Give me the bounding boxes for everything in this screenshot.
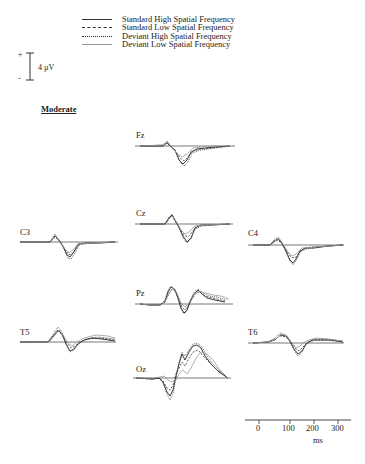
- legend: Standard High Spatial Frequency Standard…: [82, 15, 235, 49]
- erp-trace-fz: [135, 138, 235, 178]
- tick-300: 300: [331, 423, 344, 433]
- dashed-line-swatch: [82, 27, 112, 28]
- erp-trace-c4: [248, 235, 348, 280]
- scale-bar-icon: [24, 52, 36, 82]
- condition-title: Moderate: [41, 104, 76, 114]
- legend-label: Deviant Low Spatial Frequency: [122, 40, 230, 49]
- solid-line-swatch: [82, 19, 112, 20]
- erp-trace-t6: [248, 325, 348, 370]
- scale-value: 4 µV: [38, 63, 54, 72]
- light-line-swatch: [82, 44, 112, 45]
- erp-trace-cz: [135, 212, 235, 257]
- axis-unit: ms: [313, 435, 323, 445]
- plus-label: +: [18, 50, 23, 59]
- dotted-line-swatch: [82, 36, 112, 37]
- legend-item-deviant-low: Deviant Low Spatial Frequency: [82, 41, 235, 50]
- erp-trace-t5: [20, 320, 120, 365]
- erp-trace-c3: [20, 232, 120, 272]
- tick-200: 200: [306, 423, 319, 433]
- tick-100: 100: [282, 423, 295, 433]
- erp-trace-oz: [133, 340, 233, 415]
- tick-0: 0: [256, 423, 260, 433]
- erp-trace-pz: [135, 284, 235, 329]
- minus-label: -: [18, 74, 21, 83]
- voltage-scale-bar: + - 4 µV: [18, 52, 58, 82]
